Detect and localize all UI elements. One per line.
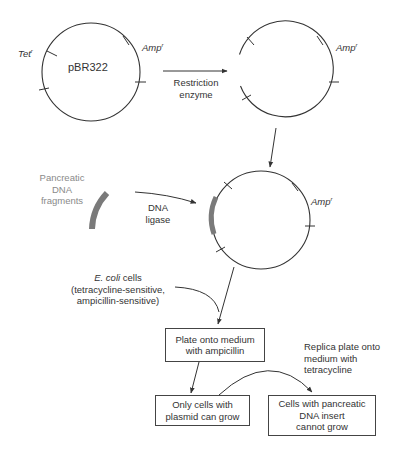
ecoli-line2: (tetracycline-sensitive, bbox=[58, 284, 178, 296]
replica-line3: tetracycline bbox=[304, 364, 380, 376]
plasmid-cut-circle bbox=[240, 21, 340, 117]
insert-cannot-grow-box: Cells with pancreatic DNA insert cannot … bbox=[268, 395, 376, 436]
cloning-diagram: Tetr pBR322 Ampr Restriction enzyme Ampr… bbox=[0, 0, 411, 455]
plasmid-to-plate-line bbox=[218, 267, 234, 324]
ecoli-line3: ampicillin-sensitive) bbox=[58, 295, 178, 307]
replica-line1: Replica plate onto bbox=[304, 341, 380, 353]
ecoli-merge-curve bbox=[175, 287, 219, 312]
replica-line2: medium with bbox=[304, 353, 380, 365]
ligase-label-line2: ligase bbox=[140, 214, 176, 226]
dna-ligase-label: DNA ligase bbox=[140, 202, 176, 225]
replica-plate-arrow bbox=[219, 371, 312, 395]
plasmid-recombinant-circle bbox=[211, 171, 315, 269]
plasmid-name-label: pBR322 bbox=[68, 62, 108, 74]
restriction-enzyme-label: Restriction enzyme bbox=[166, 77, 226, 100]
pancreatic-label-line1: Pancreatic bbox=[34, 172, 90, 184]
ecoli-line1: E. coli cells bbox=[58, 272, 178, 284]
plate-ampicillin-box: Plate onto medium with ampicillin bbox=[165, 328, 265, 362]
restriction-label-line1: Restriction bbox=[166, 77, 226, 89]
pancreatic-label-line3: fragments bbox=[34, 195, 90, 207]
plate-ampicillin-line2: with ampicillin bbox=[166, 345, 264, 357]
only-plasmid-grow-box: Only cells with plasmid can grow bbox=[155, 395, 250, 426]
ecoli-cells-label: E. coli cells (tetracycline-sensitive, a… bbox=[58, 272, 178, 307]
amp-resistance-label-3: Ampr bbox=[311, 196, 333, 208]
ligase-label-line1: DNA bbox=[140, 202, 176, 214]
only-plasmid-line2: plasmid can grow bbox=[156, 411, 249, 423]
diagram-graphics bbox=[0, 0, 411, 455]
replica-plate-label: Replica plate onto medium with tetracycl… bbox=[304, 341, 380, 376]
insert-cannot-line1: Cells with pancreatic bbox=[269, 398, 375, 410]
amp-resistance-label-2: Ampr bbox=[336, 42, 358, 54]
insert-cannot-line2: DNA insert bbox=[269, 410, 375, 422]
pancreatic-label-line2: DNA bbox=[34, 184, 90, 196]
tet-resistance-label: Tetr bbox=[18, 48, 33, 60]
plate-ampicillin-line1: Plate onto medium bbox=[166, 334, 264, 346]
amp-resistance-label-1: Ampr bbox=[142, 42, 164, 54]
restriction-label-line2: enzyme bbox=[166, 89, 226, 101]
pancreatic-dna-fragment bbox=[92, 193, 107, 229]
insert-cannot-line3: cannot grow bbox=[269, 421, 375, 433]
only-plasmid-line1: Only cells with bbox=[156, 399, 249, 411]
plate-to-growth-arrow bbox=[191, 362, 199, 393]
pancreatic-dna-label: Pancreatic DNA fragments bbox=[34, 172, 90, 207]
to-ligation-arrow bbox=[270, 128, 276, 167]
